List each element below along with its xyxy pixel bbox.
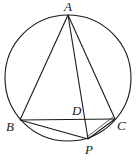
segment-cp-double xyxy=(87,117,113,137)
segment-bc xyxy=(20,119,115,120)
segment-ab xyxy=(20,15,68,120)
geometry-diagram: A B C D P xyxy=(0,0,138,163)
circumcircle xyxy=(5,15,131,141)
segment-bp xyxy=(20,120,88,139)
label-p: P xyxy=(84,142,93,157)
label-b: B xyxy=(6,119,14,134)
label-a: A xyxy=(63,0,72,14)
label-c: C xyxy=(117,118,126,133)
label-d: D xyxy=(71,103,82,118)
segment-cp xyxy=(88,119,115,139)
segment-ap xyxy=(68,15,88,139)
